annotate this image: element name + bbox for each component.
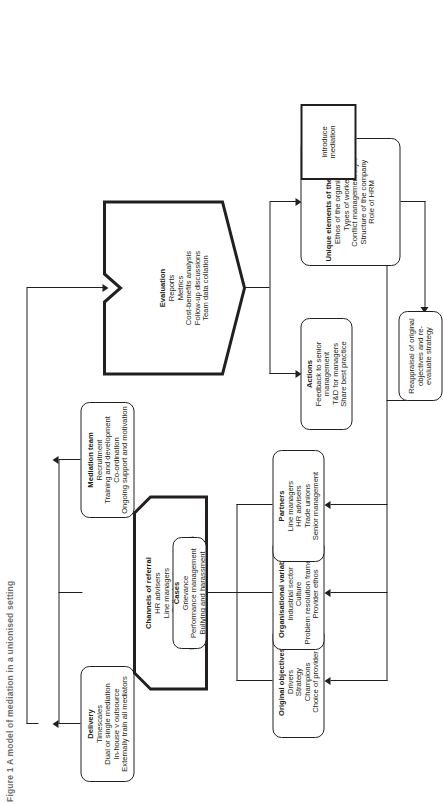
node-actions-item-0: Feedback to senior management [314, 322, 331, 426]
connector-to-unique [269, 201, 297, 202]
node-actions-item-2: Share best practice [339, 341, 348, 406]
node-unique-item-4: Role of HRM [367, 180, 376, 223]
connector-unique-down [400, 201, 425, 202]
figure-caption: Figure 1 A model of mediation in a union… [4, 581, 14, 802]
node-mediation-team[interactable]: Mediation team Recruitment Training and … [80, 402, 134, 518]
connector-rail-to-partners [330, 504, 387, 505]
node-delivery-title: Delivery [86, 709, 95, 739]
node-actions[interactable]: Actions Feedback to senior management T&… [300, 318, 352, 430]
node-delivery-item-3: Externally train all mediators [120, 676, 129, 771]
node-actions-title: Actions [305, 360, 314, 388]
connector-delivery-to-eval-rail [26, 288, 27, 724]
node-evaluation-item-4: Team data collation [201, 255, 210, 320]
node-mediation-team-item-3: Ongoing support and motivation [120, 406, 129, 514]
node-channels-item-0: HR advisers [153, 572, 162, 613]
node-evaluation-item-2: Cost-benefits analysis [184, 251, 193, 325]
node-objectives-item-3: Choice of provider [311, 651, 320, 713]
node-objectives-title: Original objectives [277, 648, 286, 716]
node-reappraisal[interactable]: Reappraisal of original objectives and r… [398, 311, 442, 401]
node-mediation-team-item-1: Training and development [103, 416, 112, 504]
node-cases[interactable]: Cases Grievance Performance management B… [172, 537, 206, 649]
connector-channels-up [58, 592, 82, 593]
node-partners[interactable]: Partners Line managers HR advisers Trade… [272, 450, 324, 562]
node-evaluation-item-0: Reports [167, 275, 176, 302]
arrowhead-delivery [52, 720, 58, 728]
node-introduce-mediation[interactable]: Introduce mediation [300, 104, 356, 180]
connector-to-delivery [58, 723, 80, 724]
node-orgvars-item-1: Culture [294, 582, 303, 606]
connector-objectives-up [236, 680, 272, 681]
arrowhead-orgvars [324, 589, 330, 597]
connector-partners-up [236, 504, 272, 505]
arrowhead-objectives [324, 677, 330, 685]
arrowhead-partners [324, 501, 330, 509]
connector-eval-down [26, 287, 104, 288]
node-partners-item-3: Senior management [311, 472, 320, 540]
connector-to-mediation-team [58, 459, 80, 460]
node-channels-title: Channels of referral [144, 557, 153, 629]
connector-to-actions [269, 373, 297, 374]
node-delivery[interactable]: Delivery Timescales Dual or single media… [80, 666, 134, 782]
node-partners-item-1: HR advisers [294, 485, 303, 526]
node-orgvars-item-3: Provider ethos [311, 570, 320, 619]
connector-orgvars-up [236, 592, 272, 593]
node-objectives-item-1: Strategy [294, 668, 303, 696]
node-mediation-team-title: Mediation team [86, 432, 95, 487]
node-introduce-label: Introduce mediation [320, 109, 337, 175]
connector-rail-to-objectives [330, 680, 387, 681]
connector-unique-to-reappraisal [424, 201, 425, 307]
node-evaluation-title: Evaluation [158, 269, 167, 307]
node-partners-title: Partners [277, 491, 286, 522]
node-evaluation[interactable]: Evaluation Reports Metrics Cost-benefits… [104, 202, 244, 374]
node-reappraisal-label: Reappraisal of original objectives and r… [407, 315, 433, 397]
connector-delivery-eval-stub [26, 723, 38, 724]
node-orgvars-title: Organisational variables [277, 550, 286, 638]
connector-top-split [58, 460, 59, 724]
node-cases-item-1: Performance management [189, 548, 198, 638]
connector-eval-split [269, 202, 270, 374]
node-delivery-item-1: Dual or single mediation [103, 683, 112, 764]
connector-cases-stem [206, 592, 237, 593]
flowchart-canvas: Figure 1 A model of mediation in a union… [0, 0, 443, 804]
node-cases-title: Cases [172, 582, 181, 604]
connector-rail-to-orgvars [330, 592, 387, 593]
node-cases-item-2: Bullying and harassment [198, 551, 207, 634]
figure-page: Figure 1 A model of mediation in a union… [0, 0, 443, 804]
arrowhead-mediation-team [52, 456, 58, 464]
